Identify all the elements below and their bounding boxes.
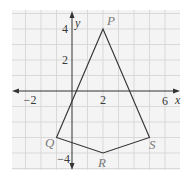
point-label-r: R (97, 155, 106, 170)
point-label-p: P (106, 13, 115, 28)
x-tick-6: 6 (162, 94, 168, 108)
x-tick-2: 2 (100, 93, 106, 107)
y-tick-2: 2 (62, 53, 68, 67)
x-axis-label: x (174, 93, 181, 107)
y-tick-neg4: −4 (57, 152, 70, 166)
y-axis-label: y (74, 16, 81, 30)
point-label-q: Q (45, 135, 55, 150)
coordinate-plane: −2 2 6 4 2 −4 x y P Q R S (0, 0, 189, 179)
point-label-s: S (149, 137, 156, 152)
x-tick-neg2: −2 (24, 93, 37, 107)
y-tick-4: 4 (62, 22, 68, 36)
